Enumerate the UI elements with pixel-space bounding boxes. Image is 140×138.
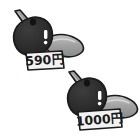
gloss-highlight-bottom	[98, 91, 102, 105]
price-tag-bottom[interactable]: 1000円	[75, 109, 124, 130]
gloss-highlight-top	[44, 30, 48, 44]
calyx-nub-top	[30, 18, 36, 25]
price-tag-top[interactable]: 590円	[25, 51, 65, 70]
illustration-svg: 590円	[0, 0, 140, 138]
illustration-canvas: 590円	[0, 0, 140, 138]
body-top	[14, 17, 53, 56]
calyx-nub-bottom	[84, 79, 90, 86]
price-label-top: 590円	[25, 51, 65, 68]
